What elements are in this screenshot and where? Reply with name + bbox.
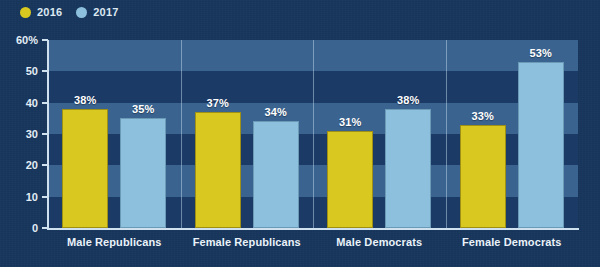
y-tick-mark: [42, 196, 48, 198]
group-separator-line: [446, 40, 447, 228]
bar-value-label: 31%: [339, 116, 362, 128]
legend-label-2017: 2017: [93, 7, 118, 18]
bar-value-label: 38%: [397, 94, 420, 106]
y-tick-label: 40: [0, 97, 38, 108]
bar-2016-male-democrats[interactable]: 31%: [327, 131, 373, 228]
bar-2017-female-democrats[interactable]: 53%: [518, 62, 564, 228]
y-tick-label: 0: [0, 223, 38, 234]
group-separator-line: [181, 40, 182, 228]
chart-legend: 2016 2017: [20, 7, 119, 18]
group-separator-line: [313, 40, 314, 228]
y-tick-mark: [42, 227, 48, 229]
bar-value-label: 37%: [206, 97, 229, 109]
y-tick-label: 30: [0, 129, 38, 140]
bar-2017-female-republicans[interactable]: 34%: [253, 121, 299, 228]
y-tick-mark: [42, 164, 48, 166]
bar-value-label: 33%: [471, 110, 494, 122]
legend-label-2016: 2016: [37, 7, 62, 18]
bar-value-label: 53%: [529, 47, 552, 59]
circle-dot-icon: [76, 7, 87, 18]
y-tick-mark: [42, 133, 48, 135]
x-axis-line: [47, 228, 579, 230]
category-label-male-republicans: Male Republicans: [67, 236, 162, 248]
bar-value-label: 35%: [132, 103, 155, 115]
bar-2016-female-republicans[interactable]: 37%: [195, 112, 241, 228]
bar-2017-male-republicans[interactable]: 35%: [120, 118, 166, 228]
legend-item-2016[interactable]: 2016: [20, 7, 62, 18]
category-label-female-democrats: Female Democrats: [462, 236, 561, 248]
bar-2016-male-republicans[interactable]: 38%: [62, 109, 108, 228]
bar-2017-male-democrats[interactable]: 38%: [385, 109, 431, 228]
y-tick-label: 50: [0, 66, 38, 77]
bar-value-label: 38%: [74, 94, 97, 106]
y-tick-mark: [42, 39, 48, 41]
y-tick-label: 20: [0, 160, 38, 171]
circle-dot-icon: [20, 7, 31, 18]
bar-2016-female-democrats[interactable]: 33%: [460, 125, 506, 228]
y-tick-mark: [42, 70, 48, 72]
y-tick-mark: [42, 102, 48, 104]
bar-value-label: 34%: [264, 106, 287, 118]
y-tick-label: 60%: [0, 35, 38, 46]
y-tick-label: 10: [0, 191, 38, 202]
category-label-male-democrats: Male Democrats: [336, 236, 422, 248]
legend-item-2017[interactable]: 2017: [76, 7, 118, 18]
category-label-female-republicans: Female Republicans: [193, 236, 301, 248]
grouped-bar-chart: 2016 2017 0102030405060% 38%35%37%34%31%…: [0, 0, 600, 267]
